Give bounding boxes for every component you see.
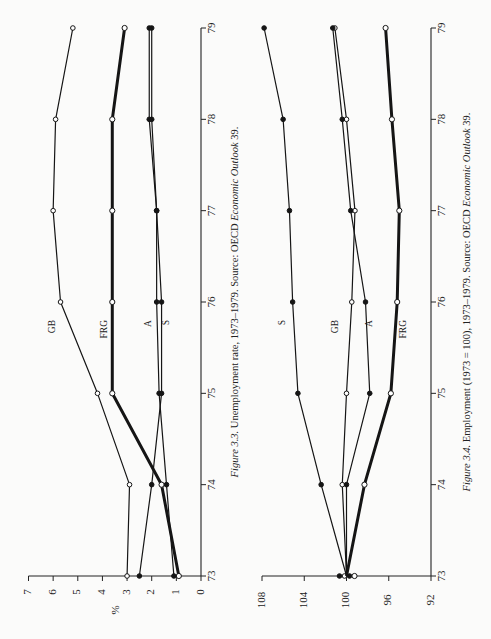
figure-caption: Figure 3.3. Unemployment rate, 1973–1979… — [229, 127, 240, 479]
data-point-gb — [349, 300, 354, 305]
data-point-a — [348, 208, 353, 213]
value-tick-label: 5 — [70, 589, 82, 595]
year-tick-label: 78 — [435, 113, 447, 125]
series-label-gb: GB — [330, 320, 340, 333]
data-point-a — [172, 574, 177, 579]
value-tick-label: 4 — [95, 589, 107, 595]
data-point-frg — [110, 299, 115, 304]
data-point-a — [363, 300, 368, 305]
figure-label: Figure 3.4. — [461, 442, 472, 492]
data-point-s — [154, 208, 159, 213]
year-tick-label: 75 — [435, 387, 447, 399]
data-point-a — [330, 26, 335, 31]
data-point-frg — [362, 482, 367, 487]
data-point-gb — [127, 482, 132, 487]
series-label-a: A — [143, 320, 153, 327]
data-point-s — [281, 117, 286, 122]
data-point-gb — [53, 117, 58, 122]
series-label-s: S — [161, 320, 171, 325]
data-point-frg — [352, 573, 357, 578]
caption-title: Employment (1973 = 100), 1973–1979. Sour… — [461, 207, 473, 442]
data-point-gb — [95, 391, 100, 396]
value-tick-label: 6 — [46, 589, 58, 595]
year-tick-label: 73 — [205, 570, 217, 582]
series-line-gb — [53, 28, 129, 576]
data-point-frg — [110, 391, 115, 396]
caption-source-suffix: 39. — [461, 113, 472, 129]
value-tick-label: 3 — [120, 589, 132, 595]
data-point-a — [367, 391, 372, 396]
value-tick-label: 7 — [21, 589, 33, 595]
unemployment-chart: 7374757677787901234567%GBFRGASFigure 3.3… — [21, 22, 240, 615]
series-line-frg — [112, 28, 179, 576]
caption-source-italic: Economic Outlook — [229, 142, 240, 222]
data-point-s — [337, 574, 342, 579]
caption-title: Unemployment rate, 1973–1979. Source: OE… — [229, 221, 240, 428]
employment-chart: 737475767778799296100104108SGBAFRGFigure… — [255, 22, 474, 608]
data-point-frg — [159, 482, 164, 487]
data-point-frg — [383, 25, 388, 30]
data-point-s — [159, 391, 164, 396]
year-tick-label: 75 — [205, 387, 217, 399]
book-page: 7374757677787901234567%GBFRGASFigure 3.3… — [0, 0, 491, 639]
caption-source-suffix: 39. — [229, 127, 240, 143]
value-tick-label: 104 — [297, 591, 309, 608]
year-tick-label: 73 — [435, 570, 447, 582]
year-tick-label: 77 — [205, 205, 217, 217]
charts-canvas: 7374757677787901234567%GBFRGASFigure 3.3… — [0, 0, 491, 639]
value-axis-label: % — [109, 605, 121, 614]
year-tick-label: 76 — [435, 296, 447, 308]
data-point-frg — [388, 391, 393, 396]
figure-label: Figure 3.3. — [229, 428, 240, 478]
data-point-frg — [395, 299, 400, 304]
series-label-s: S — [277, 320, 287, 325]
data-point-a — [344, 482, 349, 487]
data-point-gb — [71, 26, 76, 31]
figure-caption: Figure 3.4. Employment (1973 = 100), 197… — [461, 113, 473, 493]
series-label-a: A — [364, 320, 374, 327]
data-point-s — [296, 391, 301, 396]
data-point-frg — [110, 117, 115, 122]
year-tick-label: 79 — [205, 22, 217, 34]
data-point-gb — [125, 574, 130, 579]
caption-source-italic: Economic Outlook — [461, 128, 472, 208]
data-point-s — [137, 574, 142, 579]
data-point-frg — [122, 25, 127, 30]
value-tick-label: 92 — [424, 595, 436, 606]
year-tick-label: 74 — [205, 479, 217, 491]
series-line-s — [264, 28, 346, 576]
data-point-s — [159, 300, 164, 305]
data-point-a — [154, 300, 159, 305]
data-point-a — [340, 117, 345, 122]
year-tick-label: 77 — [435, 205, 447, 217]
data-point-s — [149, 482, 154, 487]
data-point-a — [164, 482, 169, 487]
data-point-frg — [176, 573, 181, 578]
value-tick-label: 1 — [169, 589, 181, 595]
value-tick-label: 108 — [255, 591, 267, 608]
data-point-s — [147, 26, 152, 31]
series-label-frg: FRG — [99, 320, 109, 339]
data-point-gb — [58, 300, 63, 305]
data-point-s — [147, 117, 152, 122]
data-point-gb — [344, 391, 349, 396]
value-tick-label: 96 — [381, 594, 393, 606]
year-tick-label: 79 — [435, 22, 447, 34]
data-point-s — [290, 300, 295, 305]
value-tick-label: 2 — [144, 589, 156, 595]
data-point-frg — [110, 208, 115, 213]
value-tick-label: 0 — [194, 589, 206, 595]
value-tick-label: 100 — [339, 591, 351, 608]
data-point-gb — [51, 208, 56, 213]
year-tick-label: 78 — [205, 113, 217, 125]
data-point-frg — [389, 117, 394, 122]
year-tick-label: 76 — [205, 296, 217, 308]
series-label-frg: FRG — [398, 320, 408, 339]
data-point-s — [262, 26, 267, 31]
data-point-frg — [397, 208, 402, 213]
data-point-s — [319, 482, 324, 487]
year-tick-label: 74 — [435, 479, 447, 491]
series-label-gb: GB — [47, 320, 57, 333]
data-point-s — [287, 208, 292, 213]
